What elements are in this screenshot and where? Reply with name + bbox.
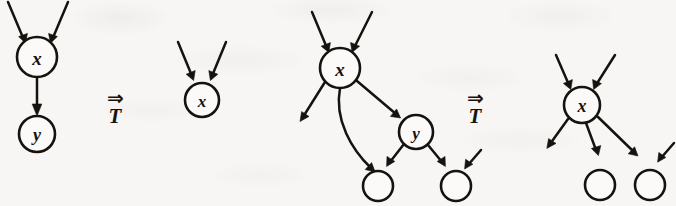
node-unlabeled-left-panel-4[interactable] — [585, 170, 615, 200]
node-x-panel-3[interactable]: x — [320, 48, 360, 88]
edge-stroke — [8, 2, 24, 40]
node-label: x — [334, 59, 345, 80]
node-label: y — [31, 125, 42, 145]
panel-2-dangling-in-edge-left — [178, 42, 195, 81]
edge-stroke — [598, 117, 634, 152]
arrowhead — [547, 139, 556, 149]
panel-2-group: x — [178, 42, 226, 117]
panel-3-dangling-in-edge-right — [351, 12, 372, 52]
panel-1-edge-x-to-y — [32, 77, 42, 116]
panel-2-dangling-in-edge-right — [209, 42, 226, 81]
node-x-panel-1[interactable]: x — [17, 37, 57, 77]
edge-stroke — [390, 144, 404, 162]
node-label: x — [31, 48, 42, 69]
node-circle — [441, 171, 471, 201]
panel-4-edge-x-to-circle2 — [598, 117, 638, 156]
node-circle — [635, 170, 665, 200]
arrowhead — [593, 80, 602, 90]
edge-stroke — [178, 42, 192, 76]
panel-4-dangling-in-edge-right — [593, 55, 615, 90]
edge-stroke — [339, 88, 371, 168]
panel-1-group: x y — [8, 2, 68, 152]
panel-3-dangling-out-edge-left — [300, 82, 325, 122]
edge-stroke — [596, 55, 615, 85]
edge-stroke — [550, 119, 568, 144]
node-x-panel-2[interactable]: x — [185, 83, 219, 117]
panel-4-group: x — [547, 55, 674, 200]
node-y-panel-3[interactable]: y — [399, 115, 433, 149]
panel-3-edge-x-to-circle1 — [339, 88, 375, 172]
node-unlabeled-left-panel-3[interactable] — [363, 171, 393, 201]
panel-3-dangling-in-edge-on-circle2 — [465, 150, 481, 169]
arrowhead — [32, 104, 42, 116]
edge-stroke — [556, 55, 569, 85]
arrowhead — [186, 71, 195, 81]
edge-stroke — [303, 82, 325, 117]
node-label: x — [577, 96, 587, 116]
rewrite-rule-symbol-1: ⇒ T — [98, 88, 132, 127]
edge-stroke — [312, 12, 327, 48]
edge-stroke — [354, 12, 372, 48]
edge-stroke — [52, 2, 68, 40]
edge-stroke — [357, 81, 396, 114]
edge-stroke — [212, 42, 226, 76]
panel-3-group: x y — [300, 12, 481, 201]
figure-canvas: x y x — [0, 0, 676, 206]
node-label: y — [410, 124, 420, 143]
node-circle — [585, 170, 615, 200]
panel-4-edge-x-to-circle1 — [586, 123, 601, 156]
arrowhead — [209, 71, 218, 81]
arrowhead — [591, 146, 600, 156]
node-label: x — [197, 92, 207, 111]
rule-subscript-label: T — [98, 106, 132, 127]
panel-3-dangling-in-edge-left — [312, 12, 330, 52]
panel-3-edge-y-to-circle1 — [387, 144, 404, 166]
node-unlabeled-right-panel-4[interactable] — [635, 170, 665, 200]
rewrite-rule-symbol-2: ⇒ T — [458, 88, 492, 127]
node-y-panel-1[interactable]: y — [19, 116, 55, 152]
node-x-panel-4[interactable]: x — [564, 87, 600, 123]
panel-3-edge-y-to-circle2 — [428, 145, 445, 166]
panel-1-dangling-in-edge-right — [49, 2, 68, 43]
panel-4-dangling-in-edge-on-circle2 — [658, 143, 674, 162]
rule-subscript-label: T — [458, 106, 492, 127]
node-unlabeled-right-panel-3[interactable] — [441, 171, 471, 201]
node-circle — [363, 171, 393, 201]
edge-stroke — [586, 123, 596, 150]
panel-4-dangling-out-edge-left — [547, 119, 568, 148]
panel-4-dangling-in-edge-left — [556, 55, 572, 90]
panel-3-edge-x-to-y — [357, 81, 401, 118]
panel-1-dangling-in-edge-left — [8, 2, 27, 43]
